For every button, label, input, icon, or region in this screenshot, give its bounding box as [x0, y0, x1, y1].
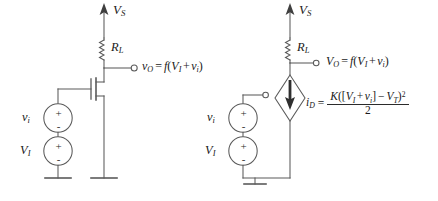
right-gate-terminal — [243, 92, 268, 104]
left-resistor-RL — [100, 38, 105, 68]
right-VI-label: VI — [205, 144, 215, 158]
left-vi-label: vi — [22, 111, 30, 125]
left-output-wire — [104, 65, 137, 71]
left-supply-rail — [100, 3, 109, 38]
right-vi-plus: + — [239, 108, 248, 119]
right-vi-minus: - — [239, 121, 248, 132]
left-VI-label: VI — [20, 144, 30, 158]
right-VI-plus: + — [239, 141, 248, 152]
right-dependent-current-source — [275, 63, 305, 178]
left-supply-label: VS — [113, 3, 125, 18]
right-supply-label: VS — [299, 3, 311, 18]
right-supply-rail — [286, 3, 295, 38]
right-VI-minus: - — [239, 154, 248, 165]
right-current-equation: iD= K([VI+vi]−VT)2 2 — [306, 91, 409, 117]
left-resistor-label: RL — [111, 41, 123, 55]
left-vi-plus: + — [54, 108, 63, 119]
right-resistor-RL — [286, 38, 291, 63]
left-output-label: vO=f(VI+vi) — [142, 60, 203, 74]
right-resistor-label: RL — [297, 41, 309, 55]
right-vi-label: vi — [207, 111, 215, 125]
left-vi-minus: - — [54, 121, 63, 132]
left-VI-plus: + — [54, 141, 63, 152]
right-output-label: VO=f(VI+vi) — [326, 55, 389, 69]
right-output-wire — [290, 60, 319, 66]
right-ground-common — [243, 178, 290, 184]
left-VI-minus: - — [54, 154, 63, 165]
